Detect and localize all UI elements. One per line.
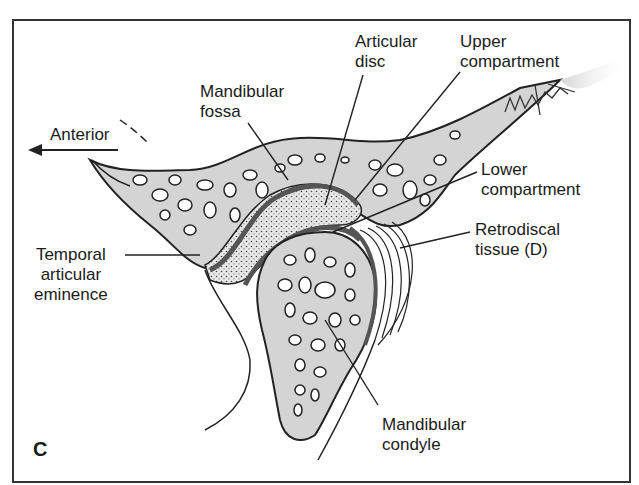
label-upper-compartment: Upper compartment — [460, 32, 559, 72]
label-anterior: Anterior — [50, 125, 110, 145]
label-mandibular-fossa: Mandibular fossa — [200, 82, 284, 122]
label-retrodiscal-tissue: Retrodiscal tissue (D) — [475, 220, 560, 260]
label-temporal-articular-eminence: Temporal articular eminence — [34, 245, 108, 305]
label-lower-compartment: Lower compartment — [481, 160, 580, 200]
panel-letter: C — [33, 438, 47, 461]
label-articular-disc: Articular disc — [355, 32, 417, 72]
label-mandibular-condyle: Mandibular condyle — [382, 415, 466, 455]
soft-tissue-outline — [205, 270, 250, 430]
anterior-arrow — [28, 144, 118, 156]
mandibular-condyle — [257, 232, 376, 440]
